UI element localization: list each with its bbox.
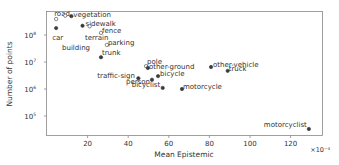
point-label-trunk: trunk — [102, 49, 121, 57]
x-tick-label: 60 — [164, 140, 173, 148]
y-tick-label: 105 — [24, 112, 36, 121]
point-label-road: road — [54, 10, 70, 18]
data-point-sidewalk — [81, 24, 84, 27]
point-label-parking: parking — [108, 39, 135, 47]
scatter-chart: 20406080100120 108107106105 roadcarveget… — [0, 0, 339, 165]
data-points: roadcarvegetationsidewalkbuildingterrain… — [52, 10, 310, 131]
y-axis-ticks: 108107106105 — [24, 31, 46, 121]
point-label-terrain: terrain — [85, 34, 108, 42]
point-label-motorcycle: motorcycle — [183, 83, 222, 91]
x-tick-label: 40 — [124, 140, 133, 148]
data-point-motorcyclist — [307, 127, 310, 130]
point-label-bicyclist: bicyclist — [132, 81, 161, 89]
y-tick-label: 108 — [24, 31, 36, 40]
data-point-bicyclist — [161, 86, 164, 89]
x-axis-label: Mean Epistemic — [154, 150, 213, 159]
point-label-fence: fence — [102, 27, 121, 35]
point-label-bicycle: bicycle — [160, 70, 184, 78]
y-tick-label: 107 — [24, 58, 36, 67]
point-label-motorcyclist: motorcyclist — [264, 121, 307, 129]
y-tick-label: 106 — [24, 85, 36, 94]
x-tick-label: 20 — [83, 140, 92, 148]
data-point-terrain — [88, 25, 91, 28]
x-tick-label: 80 — [205, 140, 214, 148]
point-label-building: building — [62, 44, 90, 52]
x-tick-label: 120 — [284, 140, 297, 148]
data-point-car — [54, 26, 57, 29]
point-label-truck: truck — [229, 65, 248, 73]
x-tick-label: 100 — [243, 140, 256, 148]
y-axis-label: Number of points — [5, 41, 14, 106]
x-axis-ticks: 20406080100120 — [83, 136, 297, 149]
point-label-car: car — [52, 34, 63, 42]
data-point-building — [64, 14, 67, 17]
plot-svg: 20406080100120 108107106105 roadcarveget… — [0, 0, 339, 165]
point-label-vegetation: vegetation — [73, 11, 111, 19]
x-multiplier-label: ×10⁻⁴ — [310, 146, 330, 154]
